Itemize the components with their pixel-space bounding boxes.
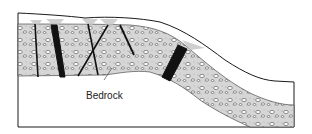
cross-section-diagram bbox=[0, 0, 312, 134]
bedrock-label: Bedrock bbox=[86, 90, 123, 101]
